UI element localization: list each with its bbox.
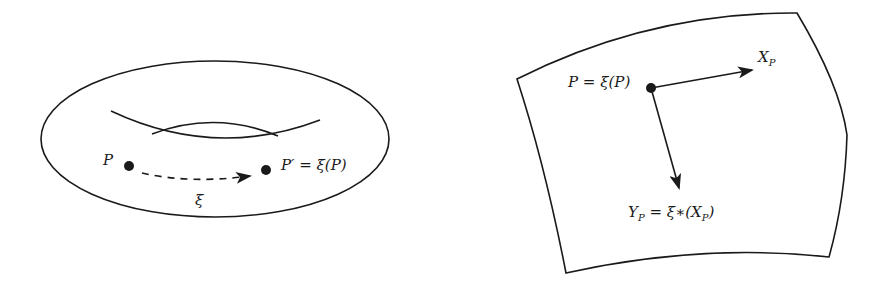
vector-x-label: XP <box>757 48 776 68</box>
point-p-label: P <box>102 151 114 169</box>
vector-x-arrow <box>651 70 752 88</box>
surface-outline <box>517 13 847 273</box>
point-p-prime-dot <box>261 165 271 175</box>
point-p-prime-label: P′ = ξ(P) <box>280 156 347 174</box>
torus-outline <box>41 61 389 217</box>
torus-hole-upper-arc <box>152 122 278 136</box>
xi-map-dashed-arrow <box>142 173 250 179</box>
point-p-dot <box>646 83 656 93</box>
point-p-dot <box>124 161 134 171</box>
vector-y-label: YP = ξ∗(XP) <box>628 203 714 223</box>
vector-y-arrow <box>651 88 679 188</box>
torus-hole-lower-arc <box>111 111 320 138</box>
xi-map-label: ξ <box>195 191 204 209</box>
surface-figure: P = ξ(P) XP YP = ξ∗(XP) <box>517 13 847 273</box>
torus-figure: P P′ = ξ(P) ξ <box>41 61 389 217</box>
point-p-label: P = ξ(P) <box>567 73 630 91</box>
diagram-canvas: P P′ = ξ(P) ξ P = ξ(P) XP YP = ξ∗(XP) <box>0 0 878 284</box>
